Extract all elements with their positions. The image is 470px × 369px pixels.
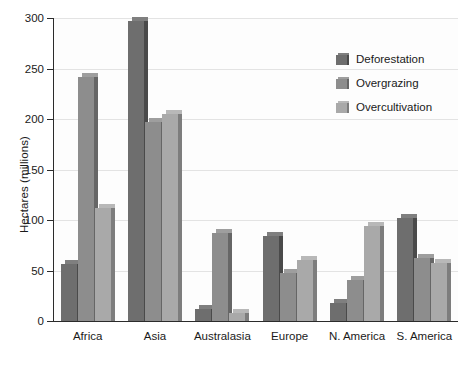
x-axis-label: Europe [271, 330, 308, 342]
y-tick-mark [47, 321, 54, 322]
y-tick-label: 200 [0, 113, 44, 125]
y-tick-mark [47, 271, 54, 272]
y-tick-label: 50 [0, 265, 44, 277]
legend-swatch-side [347, 55, 349, 66]
y-tick-mark [47, 119, 54, 120]
y-tick-label: 0 [0, 315, 44, 327]
legend-swatch-side [347, 79, 349, 90]
legend-swatch-top [338, 77, 349, 79]
y-tick-mark [47, 69, 54, 70]
legend-swatch-front [336, 55, 347, 66]
y-tick-mark [47, 170, 54, 171]
legend-item: Deforestation [336, 49, 432, 69]
x-axis-label: Africa [73, 330, 102, 342]
bar-chart: Hectares (millions) 050100150200250300 A… [0, 0, 470, 369]
legend-item: Overcultivation [336, 97, 432, 117]
legend-label: Overcultivation [356, 101, 432, 113]
legend: DeforestationOvergrazingOvercultivation [336, 49, 432, 121]
legend-label: Deforestation [356, 53, 424, 65]
y-tick-mark [47, 18, 54, 19]
x-axis-label: S. America [397, 330, 453, 342]
x-axis-label: N. America [329, 330, 385, 342]
x-axis-label: Australasia [194, 330, 251, 342]
legend-swatch-top [338, 101, 349, 103]
y-tick-label: 100 [0, 214, 44, 226]
legend-swatch-icon [336, 101, 349, 113]
legend-swatch-front [336, 103, 347, 114]
y-tick-label: 250 [0, 63, 44, 75]
legend-swatch-top [338, 53, 349, 55]
legend-swatch-icon [336, 77, 349, 89]
legend-swatch-side [347, 103, 349, 114]
legend-swatch-icon [336, 53, 349, 65]
y-tick-label: 300 [0, 12, 44, 24]
y-tick-mark [47, 220, 54, 221]
y-tick-label: 150 [0, 164, 44, 176]
legend-label: Overgrazing [356, 77, 419, 89]
x-axis-label: Asia [144, 330, 166, 342]
legend-swatch-front [336, 79, 347, 90]
legend-item: Overgrazing [336, 73, 432, 93]
